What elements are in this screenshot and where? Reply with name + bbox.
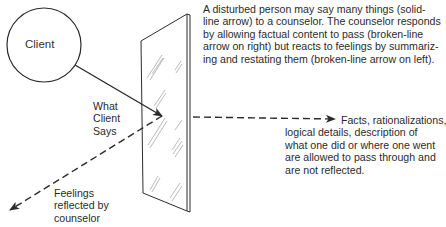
label-line: Client: [93, 112, 120, 124]
facts-line: what one did or where one went: [285, 139, 446, 151]
glass-reflection-marks: [147, 55, 183, 201]
caption-line: arrow on right) but reacts to feelings b…: [203, 40, 441, 52]
label-line: Says: [93, 125, 120, 137]
caption-line: by allowing factual content to pass (bro…: [203, 28, 441, 40]
facts-label: Facts, rationalizations, logical details…: [285, 114, 446, 176]
feelings-label: Feelings reflected by counselor: [54, 187, 109, 224]
what-client-says-label: What Client Says: [93, 100, 120, 137]
feelings-line: Feelings: [54, 187, 109, 199]
label-line: What: [93, 100, 120, 112]
facts-line: logical details, description of: [285, 126, 446, 138]
feelings-line: reflected by: [54, 199, 109, 211]
client-label: Client: [25, 38, 54, 50]
caption-line: ing and restating them (broken-line arro…: [203, 53, 441, 65]
mirror-shape: [141, 14, 190, 212]
caption-line: line arrow) to a counselor. The counselo…: [203, 15, 441, 27]
facts-line: are not reflected.: [285, 164, 446, 176]
facts-line: are allowed to pass through and: [285, 151, 446, 163]
facts-line: Facts, rationalizations,: [285, 114, 446, 126]
caption-line: A disturbed person may say many things (…: [203, 3, 441, 15]
caption-text: A disturbed person may say many things (…: [203, 3, 441, 65]
feelings-line: counselor: [54, 212, 109, 224]
